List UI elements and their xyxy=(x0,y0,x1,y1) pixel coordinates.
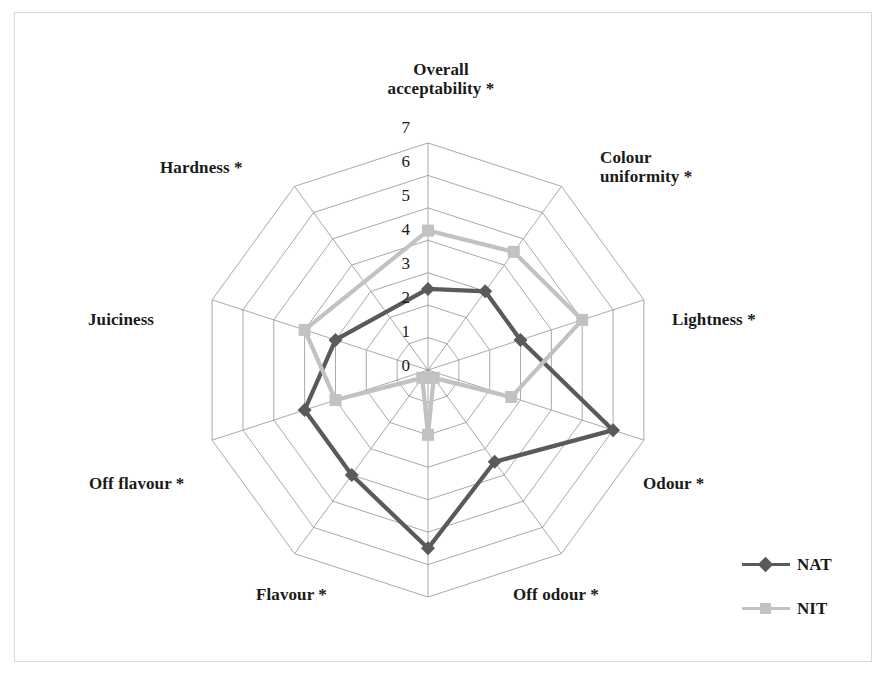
series-marker xyxy=(508,246,520,258)
series-marker xyxy=(428,372,440,384)
legend-item-nit[interactable]: NIT xyxy=(742,587,862,631)
series-marker xyxy=(422,429,434,441)
radar-grid xyxy=(212,143,644,597)
legend-item-nat[interactable]: NAT xyxy=(742,543,862,587)
radial-tick-3: 3 xyxy=(384,254,410,274)
legend-swatch-icon xyxy=(742,555,790,575)
series-marker xyxy=(329,394,341,406)
legend-label: NAT xyxy=(797,555,832,575)
series-marker xyxy=(299,324,311,336)
legend-swatch-icon xyxy=(742,599,790,619)
axis-label-hardness: Hardness * xyxy=(160,158,290,177)
radial-tick-2: 2 xyxy=(384,288,410,308)
legend-diamond-marker-icon xyxy=(758,557,774,573)
axis-label-off-flavour: Off flavour * xyxy=(89,474,229,493)
grid-spoke xyxy=(428,300,644,370)
radial-tick-6: 6 xyxy=(384,152,410,172)
radial-tick-5: 5 xyxy=(384,186,410,206)
axis-label-lightness: Lightness * xyxy=(672,310,802,329)
series-marker xyxy=(422,225,434,237)
series-marker xyxy=(505,391,517,403)
chart-legend: NATNIT xyxy=(742,543,862,631)
series-marker xyxy=(416,372,428,384)
axis-label-flavour: Flavour * xyxy=(256,585,366,604)
grid-spoke xyxy=(295,370,428,554)
series-marker xyxy=(576,314,588,326)
axis-label-colour-uniformity: Colour uniformity * xyxy=(600,148,750,186)
legend-label: NIT xyxy=(797,599,827,619)
chart-figure: Overall acceptability *Colour uniformity… xyxy=(0,0,887,678)
radial-tick-0: 0 xyxy=(384,356,410,376)
radial-tick-7: 7 xyxy=(384,118,410,138)
radial-tick-1: 1 xyxy=(384,322,410,342)
axis-label-juiciness: Juiciness xyxy=(88,310,198,329)
grid-spoke xyxy=(295,186,428,370)
legend-square-marker-icon xyxy=(760,603,771,614)
radial-tick-4: 4 xyxy=(384,220,410,240)
axis-label-off-odour: Off odour * xyxy=(513,585,643,604)
axis-label-odour: Odour * xyxy=(643,474,753,493)
axis-label-overall-acceptability: Overall acceptability * xyxy=(366,60,516,98)
